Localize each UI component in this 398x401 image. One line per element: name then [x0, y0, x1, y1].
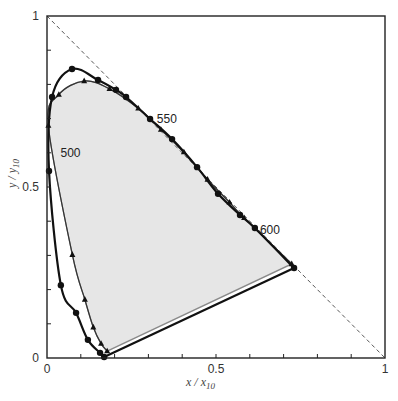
chromaticity-diagram: 00.5100.51 500550600 x / x10 y / y10: [0, 0, 398, 401]
x-tick-label: 1: [382, 362, 389, 376]
circle-marker: [147, 116, 153, 122]
x-tick-label: 0: [44, 362, 51, 376]
x-axis-title: x / x10: [185, 375, 216, 391]
circle-marker: [215, 191, 221, 197]
circle-marker: [169, 136, 175, 142]
circle-marker: [73, 310, 79, 316]
circle-marker: [113, 87, 119, 93]
circle-marker: [69, 66, 75, 72]
circle-marker: [85, 337, 91, 343]
circle-marker: [237, 212, 243, 218]
wavelength-label: 600: [260, 223, 280, 237]
circle-marker: [58, 282, 64, 288]
y-tick-label: 0.5: [22, 180, 39, 194]
circle-marker: [252, 225, 258, 231]
circle-marker: [123, 94, 129, 100]
circle-marker: [49, 94, 55, 100]
y-tick-label: 0: [32, 351, 39, 365]
wavelength-label: 500: [61, 146, 81, 160]
x-tick-label: 0.5: [208, 362, 225, 376]
y-tick-label: 1: [32, 9, 39, 23]
circle-marker: [194, 164, 200, 170]
y-axis-title: y / y10: [5, 159, 21, 190]
circle-marker: [95, 77, 101, 83]
wavelength-label: 550: [157, 112, 177, 126]
circle-marker: [97, 350, 103, 356]
